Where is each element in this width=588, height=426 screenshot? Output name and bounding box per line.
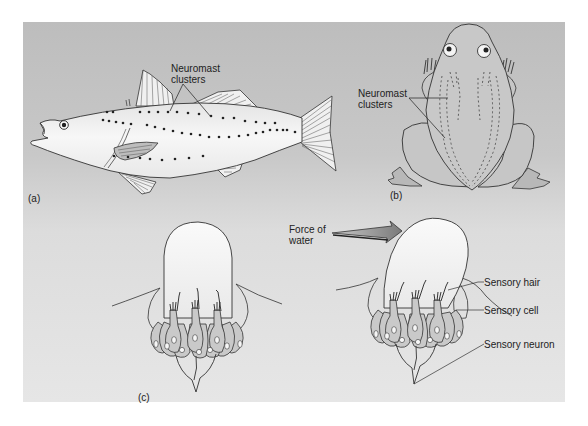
panel-c-tag: (c) — [138, 392, 150, 403]
figure-artwork — [0, 0, 588, 426]
frog-right-eye — [478, 45, 491, 58]
panel-a-tag: (a) — [28, 193, 40, 204]
sensory-neuron-upright — [176, 354, 216, 392]
fish-tail-fin — [300, 96, 336, 171]
panel-b-tag: (b) — [390, 190, 402, 201]
frog-left-eye — [444, 44, 457, 57]
frog-callout-line2: clusters — [358, 99, 407, 110]
frog-illustration — [388, 24, 550, 190]
fish-neuromast-label: Neuromast clusters — [171, 63, 220, 85]
force-label-line2: water — [289, 235, 326, 246]
fish-eye — [60, 121, 69, 130]
sensory-cell-label: Sensory cell — [484, 305, 538, 316]
fish-callout-line2: clusters — [171, 74, 220, 85]
sensory-neuron-label: Sensory neuron — [484, 339, 555, 350]
leader-sensory-neuron — [414, 344, 484, 384]
fish-dorsal-fin-spiny — [126, 70, 174, 106]
frog-callout-line1: Neuromast — [358, 88, 407, 99]
fish-callout-line1: Neuromast — [171, 63, 220, 74]
force-of-water-label: Force of water — [289, 224, 326, 246]
neuromast-deflected — [332, 218, 512, 384]
sensory-hair-label: Sensory hair — [484, 277, 540, 288]
fish-illustration — [31, 70, 336, 194]
force-label-line1: Force of — [289, 224, 326, 235]
neuromast-upright — [112, 222, 282, 392]
fish-body — [31, 103, 302, 178]
frog-neuromast-label: Neuromast clusters — [358, 88, 407, 110]
force-of-water-arrow — [332, 221, 402, 243]
sensory-neuron-deflected — [396, 344, 436, 384]
